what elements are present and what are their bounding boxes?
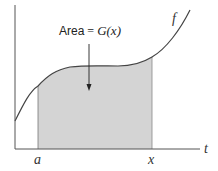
area-word: Area <box>59 24 84 38</box>
tick-label-x: x <box>148 153 154 167</box>
function-name: G <box>97 23 106 38</box>
tick-label-a: a <box>34 153 41 167</box>
area-under-curve-diagram: Area = G(x) f t a x <box>0 0 218 171</box>
x-axis-label: t <box>204 142 208 156</box>
area-annotation: Area = G(x) <box>59 24 121 37</box>
equals-sign: = <box>84 24 97 38</box>
shaded-area-region <box>38 57 152 149</box>
function-arg: (x) <box>107 23 121 38</box>
curve-label: f <box>172 12 176 26</box>
